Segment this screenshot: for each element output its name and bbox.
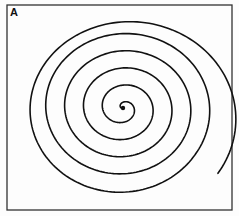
panel-label: A	[10, 7, 18, 18]
spiral-figure: A	[0, 0, 239, 216]
figure-frame	[7, 5, 232, 210]
spiral-line	[30, 22, 236, 193]
spiral-center-dot	[121, 106, 125, 110]
spiral-drawing	[0, 0, 239, 216]
